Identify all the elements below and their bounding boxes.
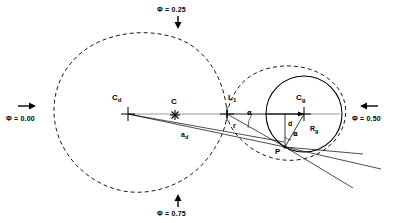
- label-alpha-upper: α: [247, 110, 252, 117]
- label-ad-sub: d: [185, 134, 188, 140]
- phase-arrow-right: [18, 103, 36, 110]
- label-ad: ad: [181, 131, 188, 139]
- label-p-base: P: [275, 147, 280, 156]
- marker-l1-cross: [220, 107, 234, 121]
- label-c-base: C: [171, 97, 177, 106]
- phase-arrow-left: [360, 103, 378, 110]
- phase-label-050: Φ = 0.50: [352, 115, 381, 122]
- label-cd: Cd: [112, 94, 121, 102]
- marker-p-point: [283, 145, 286, 148]
- label-d: d: [288, 120, 292, 127]
- phase-arrow-down: [175, 16, 182, 29]
- label-d-base: d: [288, 120, 292, 127]
- label-l1: L1: [228, 94, 236, 102]
- donor-roche-lobe: [54, 33, 227, 193]
- label-rg: Rg: [310, 125, 318, 133]
- phase-label-025: Φ = 0.25: [157, 6, 186, 13]
- diagram-canvas: [0, 0, 396, 223]
- label-cd-base: C: [112, 93, 118, 102]
- l1-to-p-line: [227, 114, 285, 147]
- marker-c-asterisk: [170, 110, 180, 120]
- label-r-base: r: [233, 122, 236, 129]
- label-cg: Cg: [296, 94, 305, 102]
- label-c: C: [171, 98, 177, 106]
- label-p: P: [275, 148, 280, 156]
- phase-label-000: Φ = 0.00: [6, 115, 35, 122]
- label-alpha-lower: α: [293, 131, 298, 138]
- trajectory-line-2: [285, 147, 363, 154]
- label-cg-base: C: [296, 93, 302, 102]
- phase-arrow-up: [175, 194, 182, 207]
- roche-lobe-diagram: Φ = 0.00 Φ = 0.25 Φ = 0.50 Φ = 0.75 Cd C…: [0, 0, 396, 223]
- phase-label-075: Φ = 0.75: [157, 210, 186, 217]
- label-rg-sub: g: [315, 128, 318, 134]
- marker-cd-cross: [121, 107, 135, 121]
- stream-edge-lower: [128, 114, 285, 147]
- label-cd-sub: d: [118, 97, 122, 103]
- trajectory-line-1: [285, 147, 381, 169]
- label-cg-sub: g: [302, 97, 306, 103]
- label-l1-sub: 1: [233, 97, 236, 103]
- label-r: r: [233, 122, 236, 129]
- marker-cg-cross: [297, 107, 311, 121]
- stream-edge-upper: [128, 114, 284, 142]
